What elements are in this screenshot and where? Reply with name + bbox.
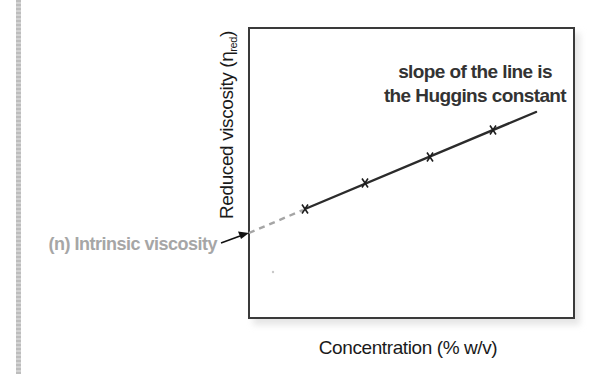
- intrinsic-viscosity-label: (n) Intrinsic viscosity: [48, 234, 217, 254]
- x-axis-label: Concentration (% w/v): [319, 337, 498, 358]
- huggins-plot-figure: slope of the line is the Huggins constan…: [0, 0, 608, 374]
- y-axis-label-main: Reduced viscosity (η: [216, 52, 237, 219]
- intercept-arrow-icon: [221, 232, 249, 244]
- artifact-dot: [272, 271, 274, 273]
- y-axis-label-subscript: red: [227, 37, 239, 52]
- y-axis-label-close: ): [216, 31, 237, 37]
- y-axis-label: Reduced viscosity (ηred): [216, 31, 239, 219]
- slope-annotation-line-2: the Huggins constant: [384, 85, 567, 106]
- slope-annotation-line-1: slope of the line is: [398, 61, 552, 82]
